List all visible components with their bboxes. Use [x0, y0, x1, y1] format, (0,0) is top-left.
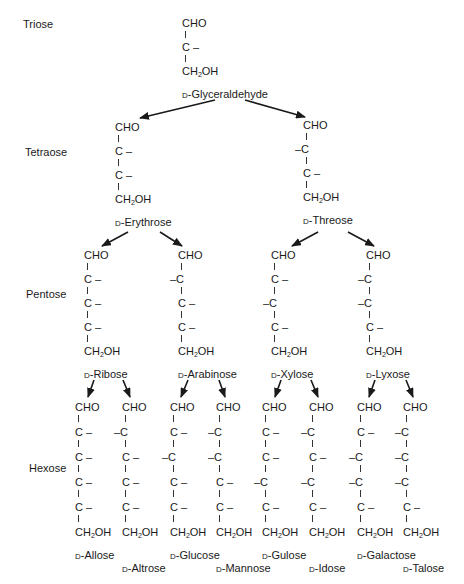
chiral-carbon-oh-right: C – [170, 427, 187, 438]
chiral-carbon-oh-right: C – [357, 502, 374, 513]
arrow-glyceraldehyde-to-threose [245, 100, 305, 117]
bond-line [87, 287, 88, 294]
chiral-carbon-oh-right: C – [122, 502, 139, 513]
aldehyde-group: CHO [271, 250, 295, 261]
arrow-xylose-to-gulose [275, 380, 281, 397]
chiral-carbon-oh-right: C – [216, 502, 233, 513]
bond-line [312, 515, 313, 522]
bond-line [312, 440, 313, 447]
sugar-name-xylose: D-Xylose [271, 368, 313, 380]
chiral-carbon-oh-left: –C [301, 427, 315, 438]
aldehyde-group: CHO [303, 120, 327, 131]
bond-line [173, 465, 174, 472]
bond-line [360, 415, 361, 422]
aldehyde-group: CHO [357, 402, 381, 413]
chiral-carbon-oh-left: –C [170, 274, 184, 285]
chiral-carbon-oh-right: C – [178, 322, 195, 333]
bond-line [312, 415, 313, 422]
aldehyde-group: CHO [403, 402, 427, 413]
chiral-carbon-oh-left: –C [358, 298, 372, 309]
sugar-name-galactose: D-Galactose [357, 549, 416, 561]
chiral-carbon-oh-left: –C [395, 452, 409, 463]
terminal-ch2oh-group: CH2OH [84, 346, 120, 357]
chiral-carbon-oh-right: C – [75, 452, 92, 463]
chiral-carbon-oh-right: C – [309, 452, 326, 463]
aldehyde-group: CHO [122, 402, 146, 413]
bond-line [265, 440, 266, 447]
bond-line [87, 311, 88, 318]
arrow-glyceraldehyde-to-erythrose [140, 100, 215, 118]
sugar-name-arabinose: D-Arabinose [178, 368, 237, 380]
chiral-carbon-oh-right: C – [170, 502, 187, 513]
bond-line [173, 515, 174, 522]
bond-line [125, 490, 126, 497]
chiral-carbon-oh-right: C – [303, 168, 320, 179]
terminal-ch2oh-group: CH2OH [309, 527, 345, 538]
terminal-ch2oh-group: CH2OH [357, 527, 393, 538]
bond-line [274, 287, 275, 294]
arrow-arabinose-to-glucose [181, 380, 188, 397]
chiral-carbon-oh-right: C – [170, 477, 187, 488]
bond-line [306, 133, 307, 140]
bond-line [219, 415, 220, 422]
bond-line [185, 31, 186, 38]
arrow-erythrose-to-ribose [102, 232, 128, 246]
chiral-carbon-oh-left: –C [358, 274, 372, 285]
bond-line [265, 415, 266, 422]
bond-line [360, 490, 361, 497]
aldehyde-group: CHO [115, 122, 139, 133]
chiral-carbon-oh-left: –C [208, 427, 222, 438]
chiral-carbon-oh-right: C – [122, 452, 139, 463]
bond-line [87, 263, 88, 270]
arrow-erythrose-to-arabinose [160, 232, 182, 246]
aldehyde-group: CHO [216, 402, 240, 413]
chiral-carbon-oh-right: C – [84, 298, 101, 309]
bond-line [118, 183, 119, 190]
bond-line [360, 465, 361, 472]
bond-line [306, 157, 307, 164]
terminal-ch2oh-group: CH2OH [262, 527, 298, 538]
terminal-ch2oh-group: CH2OH [75, 527, 111, 538]
aldehyde-group: CHO [309, 402, 333, 413]
sugar-name-allose: D-Allose [75, 549, 114, 561]
sugar-name-erythrose: D-Erythrose [115, 216, 172, 228]
chiral-carbon-oh-right: C – [122, 477, 139, 488]
aldehyde-group: CHO [262, 402, 286, 413]
bond-line [125, 465, 126, 472]
arrow-xylose-to-idose [311, 380, 318, 397]
chiral-carbon-oh-left: –C [395, 477, 409, 488]
bond-line [125, 415, 126, 422]
chiral-carbon-oh-right: C – [366, 322, 383, 333]
arrow-threose-to-xylose [292, 232, 318, 246]
aldehyde-group: CHO [170, 402, 194, 413]
bond-line [265, 465, 266, 472]
bond-line [78, 515, 79, 522]
chiral-carbon-oh-left: –C [295, 144, 309, 155]
bond-line [118, 159, 119, 166]
bond-line [360, 515, 361, 522]
bond-line [173, 415, 174, 422]
bond-line [125, 440, 126, 447]
bond-line [406, 465, 407, 472]
bond-line [125, 515, 126, 522]
chiral-carbon-oh-right: C – [403, 502, 420, 513]
bond-line [181, 335, 182, 342]
terminal-ch2oh-group: CH2OH [303, 192, 339, 203]
arrow-ribose-to-altrose [123, 380, 130, 397]
bond-line [265, 490, 266, 497]
chiral-carbon-oh-right: C – [75, 502, 92, 513]
aldehyde-group: CHO [366, 250, 390, 261]
bond-line [181, 287, 182, 294]
bond-line [181, 263, 182, 270]
bond-line [406, 415, 407, 422]
bond-line [78, 415, 79, 422]
bond-line [78, 465, 79, 472]
chiral-carbon-oh-right: C – [115, 170, 132, 181]
sugar-name-ribose: D-Ribose [84, 368, 128, 380]
bond-line [312, 490, 313, 497]
arrow-lyxose-to-talose [406, 380, 413, 397]
bond-line [87, 335, 88, 342]
terminal-ch2oh-group: CH2OH [182, 66, 218, 77]
chiral-carbon-oh-left: –C [254, 477, 268, 488]
chiral-carbon-oh-right: C – [216, 477, 233, 488]
